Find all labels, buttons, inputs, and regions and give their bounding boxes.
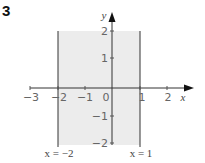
y-axis-label: y xyxy=(101,9,107,21)
y-tick-label: 1 xyxy=(101,52,108,65)
x-tick-label: −1 xyxy=(77,91,93,104)
y-tick-label: −1 xyxy=(92,110,108,123)
x-axis-arrow-icon xyxy=(184,85,194,92)
x-tick-label: 0 xyxy=(103,91,110,104)
x-tick-label: −3 xyxy=(23,91,39,104)
y-tick-label: −2 xyxy=(92,137,108,150)
y-tick-label: 2 xyxy=(101,25,108,38)
line-label-left: x = −2 xyxy=(45,147,74,159)
x-tick-label: −2 xyxy=(51,91,67,104)
y-axis-arrow-icon xyxy=(109,12,116,22)
x-tick-label: 2 xyxy=(165,91,172,104)
line-label-right: x = 1 xyxy=(130,147,153,159)
x-tick-label: 1 xyxy=(139,91,146,104)
x-axis-label: x xyxy=(180,91,186,103)
coordinate-plane: −3 −2 −1 0 1 2 x 2 1 −1 −2 y x = −2 x = … xyxy=(0,0,205,163)
